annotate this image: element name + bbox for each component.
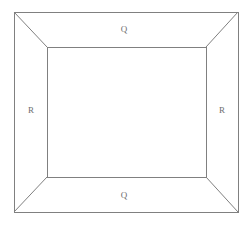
figure-canvas: Q Q R R [0, 0, 250, 228]
frame-diagram: Q Q R R [0, 0, 250, 228]
diagonal-top-left-line [14, 12, 47, 47]
label-left-r: R [28, 105, 34, 115]
label-bottom-q: Q [121, 190, 128, 200]
diagonal-bottom-right-line [206, 177, 238, 212]
diagonal-top-right-line [206, 12, 238, 47]
outer-rectangle [14, 12, 238, 212]
inner-rectangle [47, 47, 206, 177]
label-right-r: R [219, 105, 225, 115]
label-top-q: Q [121, 24, 128, 34]
diagonal-bottom-left-line [14, 177, 47, 212]
